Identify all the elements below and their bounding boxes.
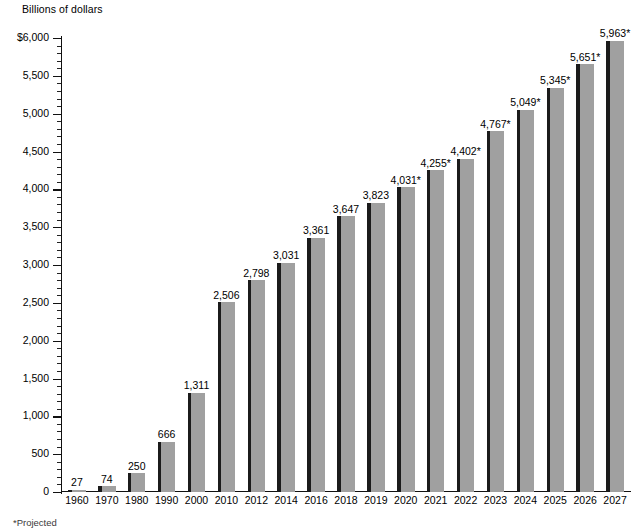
bar[interactable]: 1,311	[188, 393, 206, 492]
x-tick-label: 2020	[394, 494, 417, 506]
bar-body	[191, 393, 205, 492]
x-tick-label: 2022	[454, 494, 477, 506]
x-tick-label: 2025	[544, 494, 567, 506]
bar-body	[72, 490, 86, 492]
bar[interactable]: 4,255*	[427, 170, 445, 492]
y-tick-label: 1,000	[23, 409, 49, 421]
x-tick-label: 2016	[304, 494, 327, 506]
bar[interactable]: 3,647	[337, 216, 355, 492]
y-tick-label: 5,000	[23, 107, 49, 119]
x-axis-labels: 1960197019801990200020102012201420162018…	[62, 494, 630, 514]
bar[interactable]: 3,823	[367, 203, 385, 492]
bar-body	[490, 131, 504, 492]
bar[interactable]: 4,031*	[397, 187, 415, 492]
bar-value-label: 3,361	[303, 225, 329, 236]
bar[interactable]: 74	[98, 486, 116, 492]
bar-value-label: 5,049*	[510, 97, 540, 108]
bar[interactable]: 4,402*	[457, 159, 475, 492]
bar[interactable]: 250	[128, 473, 146, 492]
bar-body	[131, 473, 145, 492]
x-tick-label: 2024	[514, 494, 537, 506]
footnote-projected: *Projected	[13, 517, 57, 528]
bar-body	[430, 170, 444, 492]
bar-value-label: 4,402*	[450, 146, 480, 157]
bar-value-label: 5,963*	[600, 28, 630, 39]
bar-body	[281, 263, 295, 492]
x-tick-label: 1990	[155, 494, 178, 506]
bar-value-label: 5,651*	[570, 52, 600, 63]
bar-value-label: 3,647	[333, 204, 359, 215]
bar-body	[460, 159, 474, 492]
bar-value-label: 2,506	[213, 290, 239, 301]
bar[interactable]: 5,345*	[547, 88, 565, 492]
bar-body	[550, 88, 564, 492]
bar[interactable]: 5,651*	[576, 64, 594, 492]
bar-value-label: 74	[101, 474, 113, 485]
x-tick-label: 2014	[275, 494, 298, 506]
bar-value-label: 4,767*	[480, 119, 510, 130]
bar[interactable]: 5,049*	[517, 110, 535, 492]
y-tick-label: 4,000	[23, 182, 49, 194]
bar-body	[371, 203, 385, 492]
x-tick-label: 1980	[125, 494, 148, 506]
y-tick-label: 3,000	[23, 258, 49, 270]
y-tick-label: 0	[43, 485, 49, 497]
bar-value-label: 1,311	[184, 380, 210, 391]
bar[interactable]: 27	[68, 490, 86, 492]
bar-value-label: 4,255*	[420, 158, 450, 169]
bar-body	[610, 41, 624, 492]
bar-body	[401, 187, 415, 492]
y-axis-ticks: 05001,0001,5002,0002,5003,0003,5004,0004…	[0, 0, 62, 525]
y-tick-label: $6,000	[17, 31, 49, 43]
bar-value-label: 666	[158, 429, 176, 440]
bar-body	[161, 442, 175, 492]
x-tick-label: 2010	[215, 494, 238, 506]
x-tick-label: 2021	[424, 494, 447, 506]
bar[interactable]: 3,031	[277, 263, 295, 492]
x-tick-label: 2027	[603, 494, 626, 506]
x-tick-label: 2012	[245, 494, 268, 506]
bar-value-label: 27	[71, 477, 83, 488]
bar[interactable]: 666	[158, 442, 176, 492]
bar-value-label: 4,031*	[391, 175, 421, 186]
x-tick-label: 2026	[573, 494, 596, 506]
bar-body	[580, 64, 594, 492]
bar[interactable]: 2,798	[248, 280, 266, 492]
bar[interactable]: 2,506	[218, 302, 236, 492]
y-tick-label: 2,000	[23, 334, 49, 346]
bar[interactable]: 5,963*	[606, 41, 624, 492]
bar-value-label: 2,798	[243, 268, 269, 279]
bar-body	[251, 280, 265, 492]
x-tick-label: 2018	[334, 494, 357, 506]
x-tick-label: 2023	[484, 494, 507, 506]
y-tick-label: 3,500	[23, 220, 49, 232]
y-tick-label: 4,500	[23, 145, 49, 157]
bar-body	[102, 486, 116, 492]
bar-body	[221, 302, 235, 492]
y-tick-label: 500	[31, 447, 49, 459]
x-tick-label: 2000	[185, 494, 208, 506]
bar[interactable]: 3,361	[307, 238, 325, 492]
bar-body	[520, 110, 534, 492]
bar-body	[311, 238, 325, 492]
bar-body	[341, 216, 355, 492]
x-tick-label: 2019	[364, 494, 387, 506]
x-tick-label: 1970	[95, 494, 118, 506]
x-tick-label: 1960	[65, 494, 88, 506]
bar-value-label: 250	[128, 461, 146, 472]
bar-value-label: 3,823	[363, 190, 389, 201]
bar-value-label: 5,345*	[540, 75, 570, 86]
y-tick-label: 2,500	[23, 296, 49, 308]
plot-area: 27742506661,3112,5062,7983,0313,3613,647…	[62, 38, 630, 492]
y-tick-label: 1,500	[23, 372, 49, 384]
y-tick-label: 5,500	[23, 69, 49, 81]
bar[interactable]: 4,767*	[487, 131, 505, 492]
bar-value-label: 3,031	[273, 250, 299, 261]
